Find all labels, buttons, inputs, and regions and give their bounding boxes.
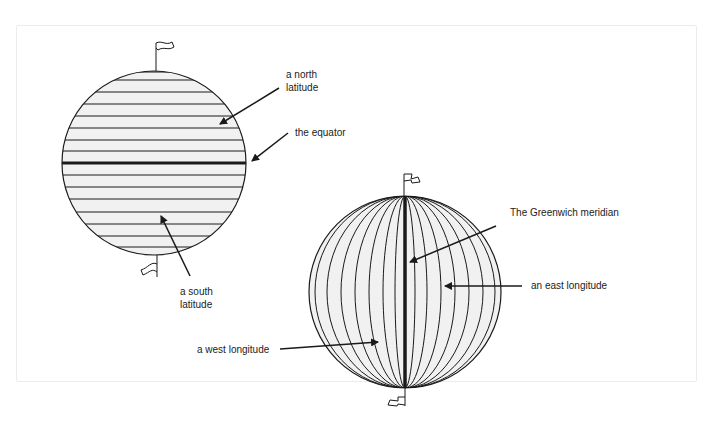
- north-flag-icon: [156, 42, 174, 71]
- latitude-globe: [50, 42, 260, 277]
- south-flag-icon: [141, 255, 157, 277]
- south-flag-icon: [388, 388, 405, 406]
- north-flag-icon: [404, 174, 420, 196]
- label-greenwich-meridian: The Greenwich meridian: [510, 206, 619, 219]
- label-east-longitude: an east longitude: [531, 279, 607, 292]
- diagram-canvas: [0, 0, 709, 438]
- longitude-globe: [309, 174, 501, 406]
- north-latitude-arrow: [220, 88, 279, 124]
- label-equator: the equator: [295, 126, 346, 139]
- equator-arrow: [252, 133, 288, 161]
- label-west-longitude: a west longitude: [197, 343, 269, 356]
- label-south-latitude: a south latitude: [180, 285, 213, 311]
- label-north-latitude: a north latitude: [286, 68, 318, 94]
